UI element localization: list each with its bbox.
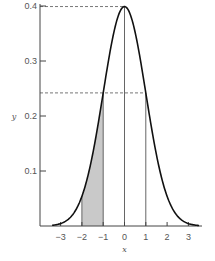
x-tick-label: 1: [143, 232, 148, 242]
y-tick-label: 0.1: [24, 166, 37, 176]
y-tick-label: 0.3: [24, 56, 37, 66]
x-tick-label: 3: [186, 232, 191, 242]
x-tick-label: −2: [77, 232, 87, 242]
x-tick-label: 2: [165, 232, 170, 242]
y-axis-label: y: [11, 112, 17, 121]
y-tick-label: 0.2: [24, 111, 37, 121]
x-tick-label: −3: [55, 232, 65, 242]
normal-density-curve: [52, 7, 199, 226]
x-axis-label: x: [122, 245, 127, 254]
y-tick-label: 0.4: [24, 1, 37, 11]
x-tick-label: 0: [122, 232, 127, 242]
x-tick-label: −1: [98, 232, 108, 242]
normal-density-chart: −3−2−101230.10.20.30.4xy: [0, 0, 215, 261]
